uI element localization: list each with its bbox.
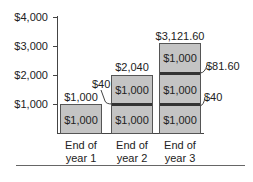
bar-total-label-year2: $2,040: [111, 61, 153, 73]
ytick-label-4000: $4,000: [0, 11, 48, 23]
bar-year2: $1,000 $1,000: [111, 75, 153, 134]
interest-segment: [160, 72, 200, 75]
category-line1: End of: [56, 139, 106, 152]
bar-total-label-year1: $1,000: [60, 91, 102, 103]
bar-year1: $1,000: [60, 104, 102, 134]
category-label-year1: End of year 1: [56, 139, 106, 165]
ytick-3000: [53, 46, 58, 47]
segment-label: $1,000: [160, 114, 200, 126]
ytick-label-3000: $3,000: [0, 40, 48, 52]
leader-line-icon: [199, 64, 209, 76]
category-label-year3: End of year 3: [155, 139, 205, 165]
ytick-2000: [53, 75, 58, 76]
category-line2: year 1: [56, 152, 106, 165]
segment-label: $1,000: [112, 84, 152, 96]
ytick-1000: [53, 104, 58, 105]
leader-line-icon: [199, 96, 207, 108]
ytick-label-2000: $2,000: [0, 69, 48, 81]
bottom-rule: [16, 165, 245, 166]
interest-segment: [112, 103, 152, 106]
ytick-4000: [53, 17, 58, 18]
interest-label-high-year3: $81.60: [206, 60, 240, 72]
bar-year3: $1,000 $1,000 $1,000: [159, 43, 201, 134]
segment-label: $1,000: [61, 114, 101, 126]
leader-line-icon: [100, 89, 114, 107]
interest-segment: [160, 103, 200, 106]
ytick-label-1000: $1,000: [0, 98, 48, 110]
segment-label: $1,000: [160, 84, 200, 96]
segment-label: $1,000: [160, 52, 200, 64]
bar-total-label-year3: $3,121.60: [150, 30, 210, 42]
category-line1: End of: [107, 139, 157, 152]
category-label-year2: End of year 2: [107, 139, 157, 165]
segment-label: $1,000: [112, 114, 152, 126]
category-line2: year 3: [155, 152, 205, 165]
category-line2: year 2: [107, 152, 157, 165]
category-line1: End of: [155, 139, 205, 152]
